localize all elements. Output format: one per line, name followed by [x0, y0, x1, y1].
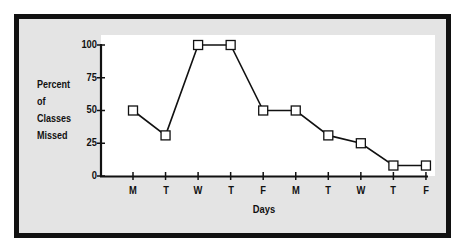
x-tick-label: T [157, 184, 174, 196]
data-point-marker [324, 131, 333, 140]
x-tick-label: F [417, 184, 434, 196]
x-tick-label: F [255, 184, 272, 196]
x-tick-label: M [125, 184, 142, 196]
data-point-marker [129, 106, 138, 115]
data-point-marker [161, 131, 170, 140]
x-tick-label: T [320, 184, 337, 196]
x-tick-label: W [190, 184, 207, 196]
data-point-marker [291, 106, 300, 115]
x-axis-label: Days [252, 203, 276, 215]
data-point-marker [421, 161, 430, 170]
data-point-marker [194, 41, 203, 50]
x-tick-label: W [352, 184, 369, 196]
data-point-marker [226, 41, 235, 50]
data-point-marker [356, 139, 365, 148]
data-point-marker [389, 161, 398, 170]
x-tick-label: T [222, 184, 239, 196]
series-line [133, 45, 426, 166]
data-point-marker [259, 106, 268, 115]
x-tick-label: M [287, 184, 304, 196]
x-tick-label: T [385, 184, 402, 196]
line-chart [0, 0, 463, 252]
data-markers [129, 41, 431, 171]
